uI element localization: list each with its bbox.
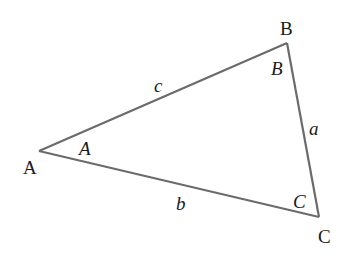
angle-label-c: C xyxy=(293,191,306,212)
side-label-a: a xyxy=(309,118,319,139)
angle-label-a: A xyxy=(77,138,91,159)
angle-label-b: B xyxy=(271,58,283,79)
vertex-label-b: B xyxy=(280,18,293,39)
side-label-c: c xyxy=(154,75,163,96)
side-c-edge xyxy=(39,43,287,151)
triangle-diagram: A B C A B C c a b xyxy=(0,0,343,256)
side-label-b: b xyxy=(176,193,186,214)
vertex-label-c: C xyxy=(318,226,331,247)
vertex-label-a: A xyxy=(23,157,37,178)
